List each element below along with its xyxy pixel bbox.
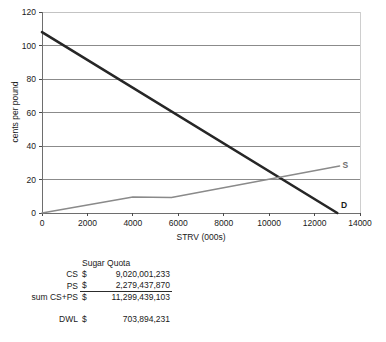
chart-container: 020406080100120 020004000600080001000012…: [0, 0, 386, 248]
row-amount-dwl: 703,894,231: [94, 314, 172, 325]
x-tick-label: 8000: [214, 218, 233, 228]
table-header-row: Sugar Quota: [14, 258, 172, 269]
y-axis-title: cents per pound: [10, 81, 20, 142]
x-tick-label: 14000: [348, 218, 372, 228]
y-tick-label: 60: [27, 108, 37, 118]
y-tick-label: 120: [22, 7, 36, 17]
y-tick-label: 20: [27, 175, 37, 185]
y-tick-label: 80: [27, 74, 37, 84]
x-axis-ticks: 02000400060008000100001200014000: [40, 213, 372, 228]
y-tick-label: 0: [31, 208, 36, 218]
row-label-cs: CS: [14, 269, 80, 280]
header-spacer: [14, 258, 80, 269]
x-tick-label: 2000: [78, 218, 97, 228]
x-axis-title: STRV (000s): [177, 232, 226, 242]
row-label-sum: sum CS+PS: [14, 292, 80, 304]
table-row-sum: sum CS+PS $ 11,299,439,103: [14, 292, 172, 304]
sugar-quota-table: Sugar Quota CS $ 9,020,001,233 PS $ 2,27…: [14, 258, 172, 325]
table-spacer-row: [14, 303, 172, 314]
table-header-label: Sugar Quota: [80, 258, 172, 269]
row-amount-ps: 2,279,437,870: [94, 280, 172, 292]
y-tick-label: 40: [27, 141, 37, 151]
x-tick-label: 4000: [123, 218, 142, 228]
row-label-ps: PS: [14, 280, 80, 292]
x-tick-label: 6000: [169, 218, 188, 228]
currency-symbol-dwl: $: [80, 314, 94, 325]
row-amount-cs: 9,020,001,233: [94, 269, 172, 280]
row-amount-sum: 11,299,439,103: [94, 292, 172, 304]
series-label-d: D: [341, 200, 347, 210]
x-tick-label: 10000: [257, 218, 281, 228]
y-tick-label: 100: [22, 41, 36, 51]
summary-table-container: Sugar Quota CS $ 9,020,001,233 PS $ 2,27…: [0, 248, 386, 342]
currency-symbol-sum: $: [80, 292, 94, 304]
currency-symbol-ps: $: [80, 280, 94, 292]
table-row-ps: PS $ 2,279,437,870: [14, 280, 172, 292]
row-label-dwl: DWL: [14, 314, 80, 325]
series-label-s: S: [342, 160, 348, 170]
table-row-dwl: DWL $ 703,894,231: [14, 314, 172, 325]
x-tick-label: 0: [40, 218, 45, 228]
x-tick-label: 12000: [303, 218, 327, 228]
table-row-cs: CS $ 9,020,001,233: [14, 269, 172, 280]
currency-symbol-cs: $: [80, 269, 94, 280]
supply-demand-chart: 020406080100120 020004000600080001000012…: [0, 0, 386, 248]
y-axis-ticks: 020406080100120: [22, 7, 42, 218]
